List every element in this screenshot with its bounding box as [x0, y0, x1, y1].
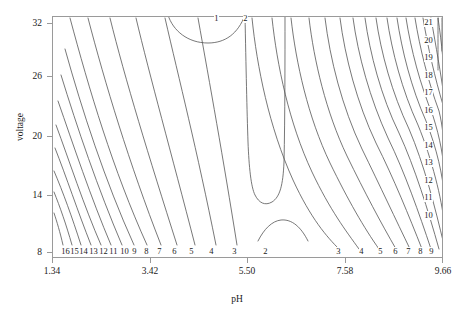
contour-lines: [53, 17, 443, 258]
contour-label: 5: [189, 247, 194, 256]
contour-label: 6: [172, 247, 177, 256]
y-tick-mark: [47, 136, 52, 137]
x-tick-mark: [345, 258, 346, 263]
x-tick-label: 7.58: [324, 266, 366, 276]
plot-area: [52, 16, 443, 258]
y-tick-mark: [47, 195, 52, 196]
contour-label: 2: [263, 247, 268, 256]
contour-plot-figure: 322620148 1.343.425.507.589.66 122120191…: [0, 0, 467, 318]
contour-label: 13: [89, 247, 98, 256]
contour-label: 3: [336, 247, 341, 256]
contour-label: 17: [424, 88, 433, 97]
contour-label: 10: [424, 211, 433, 220]
contour-label: 8: [144, 247, 149, 256]
contour-label: 16: [61, 247, 70, 256]
y-axis-title: voltage: [15, 97, 25, 157]
y-tick-label: 8: [8, 247, 42, 257]
contour-label: 13: [424, 158, 433, 167]
contour-label: 4: [359, 247, 364, 256]
x-tick-mark: [52, 258, 53, 263]
contour-label: 11: [424, 193, 433, 202]
contour-label: 12: [99, 247, 108, 256]
contour-label: 19: [424, 53, 433, 62]
y-tick-label: 20: [8, 131, 42, 141]
contour-label: 14: [424, 141, 433, 150]
contour-label: 12: [424, 176, 433, 185]
contour-label: 21: [424, 18, 433, 27]
x-tick-label: 9.66: [422, 266, 464, 276]
contour-label: 3: [232, 247, 237, 256]
contour-label: 14: [79, 247, 88, 256]
contour-label: 2: [243, 14, 248, 23]
contour-label: 4: [209, 247, 214, 256]
x-tick-mark: [150, 258, 151, 263]
contour-label: 6: [393, 247, 398, 256]
contour-label: 8: [418, 247, 423, 256]
contour-label: 15: [424, 123, 433, 132]
contour-label: 9: [429, 247, 434, 256]
x-tick-label: 3.42: [129, 266, 171, 276]
y-tick-mark: [47, 23, 52, 24]
y-tick-mark: [47, 252, 52, 253]
contour-label: 9: [132, 247, 137, 256]
contour-label: 20: [424, 36, 433, 45]
y-tick-label: 26: [8, 71, 42, 81]
contour-label: 16: [424, 106, 433, 115]
x-axis-title: pH: [207, 294, 267, 304]
y-tick-label: 14: [8, 190, 42, 200]
y-tick-mark: [47, 76, 52, 77]
x-tick-mark: [442, 258, 443, 263]
contour-label: 7: [406, 247, 411, 256]
contour-label: 7: [157, 247, 162, 256]
contour-label: 15: [70, 247, 79, 256]
contour-label: 10: [120, 247, 129, 256]
contour-label: 1: [214, 14, 219, 23]
x-tick-label: 5.50: [226, 266, 268, 276]
contour-label: 18: [424, 71, 433, 80]
y-tick-label: 32: [8, 18, 42, 28]
x-tick-label: 1.34: [31, 266, 73, 276]
contour-label: 11: [109, 247, 118, 256]
contour-label: 5: [378, 247, 383, 256]
x-tick-mark: [247, 258, 248, 263]
